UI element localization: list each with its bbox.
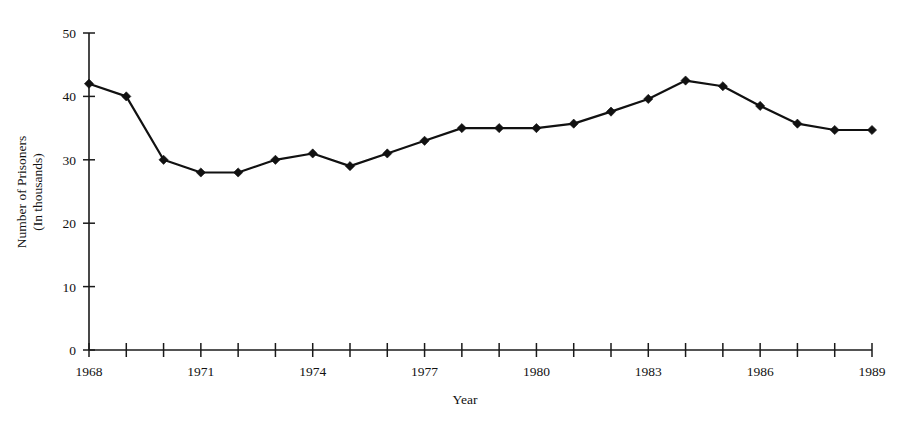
y-tick-label: 20 xyxy=(63,216,77,231)
y-axis-title-line1: Number of Prisoners xyxy=(14,136,29,248)
y-axis-title-line2: (In thousands) xyxy=(30,153,45,231)
x-tick-label: 1986 xyxy=(747,364,774,379)
chart-background xyxy=(0,0,918,427)
prisoners-line-chart: 01020304050 1968197119741977198019831986… xyxy=(0,0,918,427)
x-axis-title: Year xyxy=(453,392,478,407)
x-tick-label: 1971 xyxy=(187,364,214,379)
y-tick-label: 40 xyxy=(63,89,77,104)
y-tick-label: 30 xyxy=(63,153,77,168)
line-chart-container: 01020304050 1968197119741977198019831986… xyxy=(0,0,918,427)
x-tick-label: 1977 xyxy=(411,364,438,379)
y-tick-label: 0 xyxy=(69,343,76,358)
y-tick-label: 50 xyxy=(63,26,77,41)
x-tick-label: 1989 xyxy=(859,364,886,379)
y-tick-label: 10 xyxy=(63,280,77,295)
x-tick-label: 1980 xyxy=(523,364,550,379)
x-tick-label: 1968 xyxy=(76,364,103,379)
x-tick-label: 1983 xyxy=(635,364,662,379)
x-tick-label: 1974 xyxy=(299,364,326,379)
